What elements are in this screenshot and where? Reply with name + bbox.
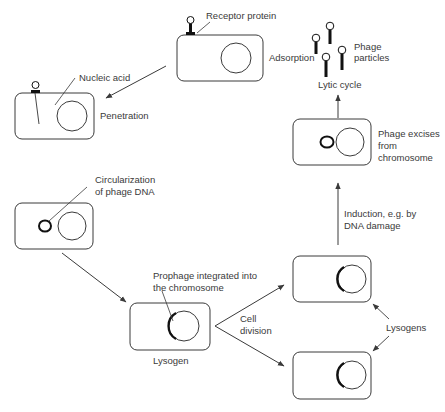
- label-lysogen: Lysogen: [153, 355, 189, 367]
- phage-life-cycle-diagram: Receptor protein Adsorption Nucleic acid…: [0, 0, 445, 412]
- daughter-lysogen-top: [293, 256, 371, 302]
- label-prophage-line2: the chromosome: [153, 282, 224, 294]
- label-phage-excises-line3: chromosome: [378, 152, 433, 164]
- label-adsorption: Adsorption: [269, 52, 314, 64]
- label-circularization-line1: Circularization: [95, 174, 155, 186]
- label-penetration: Penetration: [100, 110, 149, 122]
- phage-particles-group: [312, 22, 346, 77]
- label-receptor-protein: Receptor protein: [206, 10, 276, 22]
- excision-cell: [293, 119, 371, 165]
- label-cell-division-line2: division: [240, 325, 272, 337]
- label-phage-particles-line2: particles: [354, 52, 389, 64]
- circularization-cell: [15, 187, 93, 249]
- daughter-lysogen-bottom: [293, 352, 371, 399]
- label-phage-particles-line1: Phage: [354, 41, 381, 53]
- label-lytic-cycle: Lytic cycle: [318, 79, 361, 91]
- arrow-lysogens-top: [373, 304, 389, 319]
- label-phage-excises-line1: Phage excises: [378, 128, 440, 140]
- label-phage-excises-line2: from: [378, 140, 397, 152]
- label-nucleic-acid: Nucleic acid: [79, 72, 130, 84]
- label-induction-line1: Induction, e.g. by: [344, 208, 416, 220]
- label-induction-line2: DNA damage: [344, 220, 401, 232]
- adsorption-cell: [177, 17, 263, 82]
- label-cell-division-line1: Cell: [240, 313, 256, 325]
- label-prophage-line1: Prophage integrated into: [153, 270, 257, 282]
- receptor-leader-line: [197, 22, 210, 33]
- phage-particle-icon: [338, 46, 346, 70]
- label-lysogens: Lysogens: [386, 322, 426, 334]
- arrow-circularization-to-lysogen: [62, 253, 126, 302]
- label-circularization-line2: of phage DNA: [95, 186, 155, 198]
- phage-particle-icon: [322, 53, 330, 77]
- phage-particle-icon: [326, 22, 334, 44]
- lysogen-cell: [130, 291, 210, 350]
- penetration-cell: [15, 78, 94, 139]
- arrow-lysogens-bottom: [373, 336, 389, 351]
- receptor-phage-icon: [186, 17, 195, 36]
